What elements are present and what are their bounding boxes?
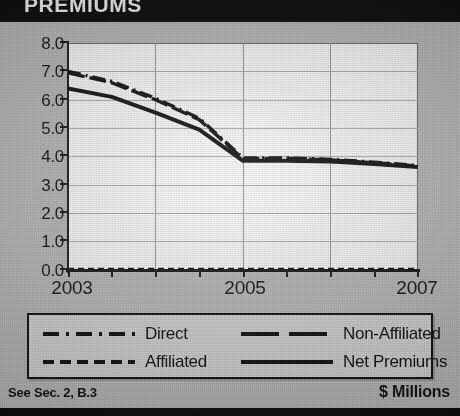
chart-legend: Direct Non-Affiliated Affiliated Net Pre… <box>27 313 433 379</box>
legend-item-net-premiums: Net Premiums <box>239 349 447 375</box>
series-line <box>68 88 418 167</box>
x-axis-tick <box>374 269 376 277</box>
y-axis-label: 5.0 <box>26 120 64 137</box>
x-axis-label: 2007 <box>396 277 437 299</box>
y-axis-label: 2.0 <box>26 205 64 222</box>
chart-title-bar: PREMIUMS <box>0 0 460 22</box>
x-axis-label: 2003 <box>51 277 92 299</box>
x-axis-tick <box>68 269 70 277</box>
chart-footer: See Sec. 2, B.3 $ Millions <box>0 383 460 407</box>
legend-item-direct: Direct <box>41 321 188 347</box>
short-dash-line-icon <box>41 353 137 371</box>
long-dash-line-icon <box>239 325 335 343</box>
series-line <box>68 73 418 166</box>
chart-page: PREMIUMS <box>0 0 460 416</box>
y-axis-label: 4.0 <box>26 148 64 165</box>
x-axis-tick <box>155 269 157 277</box>
y-axis-label: 8.0 <box>26 35 64 52</box>
legend-item-non-affiliated: Non-Affiliated <box>239 321 441 347</box>
bottom-bar <box>0 408 460 416</box>
legend-label: Direct <box>145 324 188 344</box>
y-axis-label: 3.0 <box>26 177 64 194</box>
x-axis-tick <box>417 269 419 277</box>
legend-label: Affiliated <box>145 352 207 372</box>
legend-item-affiliated: Affiliated <box>41 349 207 375</box>
legend-label: Net Premiums <box>343 352 447 372</box>
x-axis-tick <box>330 269 332 277</box>
y-axis-label: 1.0 <box>26 233 64 250</box>
x-axis-labels: 2003 2005 2007 <box>0 277 460 303</box>
data-series-layer <box>68 43 418 270</box>
y-axis <box>67 41 69 273</box>
x-axis-label: 2005 <box>224 277 265 299</box>
x-axis <box>66 269 420 272</box>
units-label: $ Millions <box>379 383 450 401</box>
legend-label: Non-Affiliated <box>343 324 441 344</box>
dash-dot-line-icon <box>41 325 137 343</box>
x-axis-tick <box>243 269 245 277</box>
x-axis-tick <box>199 269 201 277</box>
y-axis-label: 7.0 <box>26 63 64 80</box>
x-axis-tick <box>286 269 288 277</box>
y-axis-label: 6.0 <box>26 92 64 109</box>
solid-line-icon <box>239 353 335 371</box>
source-note: See Sec. 2, B.3 <box>8 385 97 400</box>
x-axis-tick <box>111 269 113 277</box>
